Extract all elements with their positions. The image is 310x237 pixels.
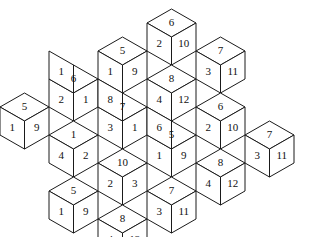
cube-5-top-label: 10 — [117, 156, 129, 168]
cube-12-top-label: 7 — [218, 44, 224, 56]
cube-4-right-label: 1 — [132, 121, 138, 133]
cube-9-top-label: 8 — [169, 72, 175, 84]
cube-2-top-label: 1 — [71, 128, 77, 140]
tiling-figure-root: 5916121245917131032591812461028124591711… — [0, 0, 310, 237]
face-b-label: 8 — [108, 93, 114, 105]
cube-8-top-label: 6 — [169, 16, 175, 28]
cube-1-top-label: 6 — [71, 72, 77, 84]
cube-10-left-label: 1 — [157, 149, 163, 161]
cube-6-left-label: 1 — [59, 205, 65, 217]
face-c-label: 6 — [157, 121, 163, 133]
cube-13-right-label: 10 — [227, 121, 239, 133]
cube-12-left-label: 3 — [206, 65, 212, 77]
cube-14-left-label: 4 — [206, 177, 212, 189]
cube-0-left-label: 1 — [10, 121, 16, 133]
cube-4-top-label: 7 — [120, 100, 126, 112]
cube-8-left-label: 2 — [157, 37, 163, 49]
rhombille-tiling-svg: 5916121245917131032591812461028124591711… — [0, 0, 310, 237]
cube-15-top-label: 7 — [267, 128, 273, 140]
cube-12-right-label: 11 — [227, 65, 238, 77]
cube-6-top-label: 5 — [71, 184, 77, 196]
cube-7-top-label: 8 — [120, 212, 126, 224]
cube-3-right-label: 9 — [132, 65, 138, 77]
cube-15-left-label: 3 — [255, 149, 261, 161]
cube-2-left-label: 4 — [59, 149, 65, 161]
cube-14-right-label: 12 — [227, 177, 238, 189]
cube-15-right-label: 11 — [276, 149, 287, 161]
faces-layer — [0, 9, 294, 237]
cube-2-right-label: 2 — [83, 149, 89, 161]
cube-10-top-label: 5 — [169, 128, 175, 140]
cube-11-right-label: 11 — [178, 205, 189, 217]
cube-13-left-label: 2 — [206, 121, 212, 133]
cube-9-right-label: 12 — [178, 93, 189, 105]
cube-7-right-label: 12 — [129, 233, 140, 237]
cube-8-right-label: 10 — [178, 37, 190, 49]
cube-5-left-label: 2 — [108, 177, 114, 189]
cube-0-top-label: 5 — [22, 100, 28, 112]
cube-5-right-label: 3 — [132, 177, 138, 189]
cube-7-left-label: 4 — [108, 233, 114, 237]
cube-9-left-label: 4 — [157, 93, 163, 105]
cube-14-top-label: 8 — [218, 156, 224, 168]
cube-3-left-label: 1 — [108, 65, 114, 77]
cube-11-top-label: 7 — [169, 184, 175, 196]
cube-11-left-label: 3 — [157, 205, 163, 217]
cube-0-right-label: 9 — [34, 121, 40, 133]
cube-1-right-label: 1 — [83, 93, 89, 105]
cube-1-left-label: 2 — [59, 93, 65, 105]
cube-10-right-label: 9 — [181, 149, 187, 161]
face-a-label: 1 — [59, 65, 65, 77]
cube-13-top-label: 6 — [218, 100, 224, 112]
cube-6-right-label: 9 — [83, 205, 89, 217]
cube-3-top-label: 5 — [120, 44, 126, 56]
cube-4-left-label: 3 — [108, 121, 114, 133]
